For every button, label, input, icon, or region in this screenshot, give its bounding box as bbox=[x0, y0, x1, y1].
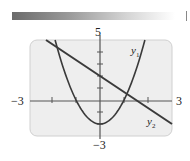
x-min-label: −3 bbox=[11, 95, 24, 107]
y1-label: y1 bbox=[131, 45, 139, 59]
y-min-label: −3 bbox=[93, 139, 106, 151]
y2-label-sub: 2 bbox=[152, 122, 156, 130]
y-max-label: 5 bbox=[95, 26, 101, 38]
x-max-label: 3 bbox=[176, 95, 182, 107]
y2-label: y2 bbox=[147, 116, 155, 130]
y1-label-sub: 1 bbox=[136, 51, 140, 59]
